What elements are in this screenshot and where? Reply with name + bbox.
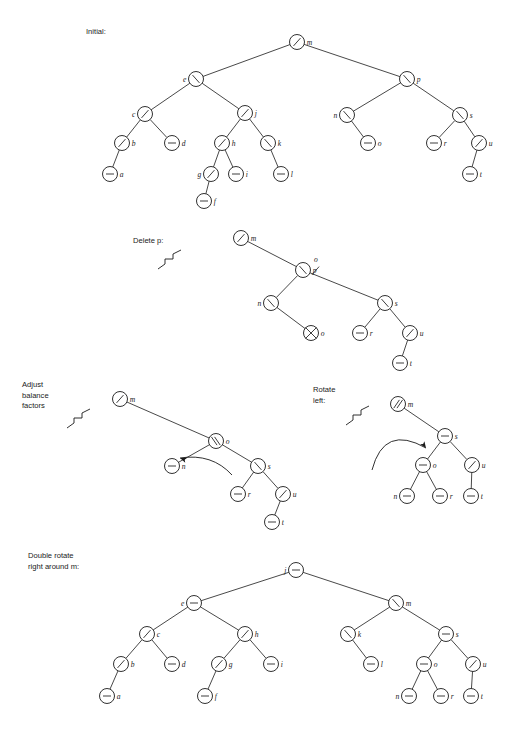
tree-node-adjust-balance-n[interactable]: n xyxy=(165,459,186,474)
tree-edge xyxy=(153,607,187,630)
tree-node-initial-c[interactable]: c xyxy=(132,107,153,122)
tree-node-rotate-left-t[interactable]: t xyxy=(464,489,484,504)
avl-deletion-figure: Initial:mepcjnsbdhkoruagiltfDelete p:mpo… xyxy=(0,0,516,738)
tree-node-initial-j[interactable]: j xyxy=(238,106,257,121)
tree-edge xyxy=(127,120,141,137)
tree-node-rotate-left-m[interactable]: m xyxy=(391,397,414,412)
tree-node-initial-o[interactable]: o xyxy=(361,136,382,151)
tree-node-initial-s[interactable]: s xyxy=(453,108,473,123)
tree-node-double-rotate-right-l[interactable]: l xyxy=(364,657,383,672)
tree-node-initial-i[interactable]: i xyxy=(229,167,248,182)
tree-node-initial-m[interactable]: m xyxy=(290,35,313,50)
panel-caption-double-rotate-right: Double rotateright around m: xyxy=(28,551,79,571)
tree-node-double-rotate-right-n[interactable]: n xyxy=(396,689,417,704)
tree-node-double-rotate-right-m[interactable]: m xyxy=(389,596,412,611)
node-label-k: k xyxy=(358,630,362,639)
panel-caption-delete-p: Delete p: xyxy=(133,236,163,245)
tree-node-double-rotate-right-k[interactable]: k xyxy=(341,627,362,642)
node-label-g: g xyxy=(229,660,233,669)
tree-node-initial-h[interactable]: h xyxy=(215,136,236,151)
tree-node-double-rotate-right-u[interactable]: u xyxy=(466,657,487,672)
tree-node-double-rotate-right-d[interactable]: d xyxy=(165,657,186,672)
tree-node-rotate-left-u[interactable]: u xyxy=(465,458,486,473)
edges-initial xyxy=(113,44,477,193)
tree-edge xyxy=(428,640,441,658)
tree-node-initial-a[interactable]: a xyxy=(103,167,124,182)
node-label-a: a xyxy=(120,170,124,179)
tree-node-delete-p-n[interactable]: n xyxy=(258,296,279,311)
tree-node-double-rotate-right-j[interactable]: j xyxy=(283,563,303,578)
tree-node-rotate-left-o[interactable]: o xyxy=(416,458,437,473)
node-label-c: c xyxy=(157,630,161,639)
tree-node-double-rotate-right-a[interactable]: a xyxy=(100,689,121,704)
tree-node-initial-t[interactable]: t xyxy=(463,167,483,182)
tree-node-adjust-balance-o[interactable]: o xyxy=(209,434,230,449)
tree-node-delete-p-t[interactable]: t xyxy=(393,356,413,371)
tree-node-initial-b[interactable]: b xyxy=(115,136,136,151)
caption-line: right around m: xyxy=(28,562,79,571)
tree-node-adjust-balance-r[interactable]: r xyxy=(231,487,251,502)
node-label-b: b xyxy=(131,660,135,669)
tree-node-double-rotate-right-g[interactable]: g xyxy=(212,657,233,672)
tree-edge xyxy=(354,607,389,630)
tree-node-rotate-left-r[interactable]: r xyxy=(433,489,453,504)
tree-node-delete-p-p[interactable]: po xyxy=(296,255,320,278)
tree-node-initial-l[interactable]: l xyxy=(274,167,293,182)
tree-edge xyxy=(471,472,472,488)
tree-node-initial-f[interactable]: f xyxy=(197,194,217,209)
caption-line: balance xyxy=(22,391,49,400)
tree-node-double-rotate-right-i[interactable]: i xyxy=(264,657,283,672)
tree-node-adjust-balance-t[interactable]: t xyxy=(265,515,285,530)
node-label-r: r xyxy=(248,490,251,499)
tree-node-initial-g[interactable]: g xyxy=(198,167,219,182)
node-label-j: j xyxy=(254,109,257,118)
node-label-g: g xyxy=(198,170,202,179)
tree-node-double-rotate-right-b[interactable]: b xyxy=(114,657,135,672)
node-label-n: n xyxy=(394,492,398,501)
tree-node-delete-p-s[interactable]: s xyxy=(378,296,398,311)
tree-node-double-rotate-right-e[interactable]: e xyxy=(181,596,202,611)
node-label-e: e xyxy=(181,599,185,608)
tree-edge xyxy=(203,45,290,77)
tree-edge xyxy=(402,607,439,630)
tree-node-initial-k[interactable]: k xyxy=(261,136,282,151)
node-label-h: h xyxy=(232,139,236,148)
panel-caption-adjust-balance: Adjustbalancefactors xyxy=(22,380,49,410)
tree-node-initial-e[interactable]: e xyxy=(183,72,204,87)
tree-edge xyxy=(428,671,438,690)
tree-node-double-rotate-right-r[interactable]: r xyxy=(434,689,454,704)
tree-edge xyxy=(428,442,441,459)
tree-node-delete-p-u[interactable]: u xyxy=(403,326,424,341)
tree-node-initial-n[interactable]: n xyxy=(334,108,355,123)
node-label-t: t xyxy=(481,492,484,501)
tree-node-initial-r[interactable]: r xyxy=(427,136,447,151)
tree-edge xyxy=(303,572,389,600)
tree-node-rotate-left-s[interactable]: s xyxy=(438,429,458,444)
tree-node-rotate-left-n[interactable]: n xyxy=(394,489,415,504)
tree-node-initial-p[interactable]: p xyxy=(400,72,421,87)
tree-node-adjust-balance-s[interactable]: s xyxy=(251,459,271,474)
node-label-i: i xyxy=(246,170,248,179)
tree-node-initial-d[interactable]: d xyxy=(165,136,186,151)
tree-edge xyxy=(471,671,472,688)
tree-node-double-rotate-right-o[interactable]: o xyxy=(417,657,438,672)
tree-node-delete-p-o[interactable]: o xyxy=(304,326,325,341)
node-label-o: o xyxy=(321,329,325,338)
tree-node-double-rotate-right-t[interactable]: t xyxy=(464,689,484,704)
node-label-i: i xyxy=(281,660,283,669)
tree-node-double-rotate-right-s[interactable]: s xyxy=(439,627,459,642)
tree-node-double-rotate-right-h[interactable]: h xyxy=(238,627,259,642)
tree-node-initial-u[interactable]: u xyxy=(472,136,493,151)
tree-node-delete-p-m[interactable]: m xyxy=(234,231,257,246)
tree-node-double-rotate-right-c[interactable]: c xyxy=(140,627,161,642)
tree-node-delete-p-r[interactable]: r xyxy=(353,326,373,341)
node-circle-m[interactable] xyxy=(391,397,406,412)
tree-edge xyxy=(200,607,238,630)
node-circle-o[interactable] xyxy=(209,434,224,449)
tree-edge xyxy=(275,501,281,515)
node-label-p: p xyxy=(416,75,421,84)
tree-node-adjust-balance-u[interactable]: u xyxy=(276,487,297,502)
node-label-f: f xyxy=(215,692,218,701)
tree-node-double-rotate-right-f[interactable]: f xyxy=(198,689,218,704)
node-label-m: m xyxy=(408,400,414,409)
